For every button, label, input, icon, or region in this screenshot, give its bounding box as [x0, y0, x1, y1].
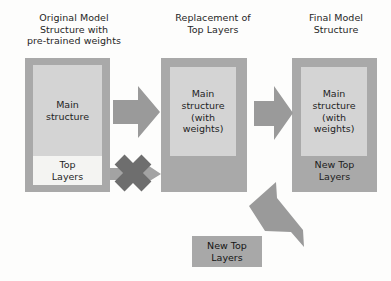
diagram-canvas: Original Model Structure with pre-traine…: [0, 0, 391, 281]
caption-replacement-top-layers: Replacement of Top Layers: [154, 12, 272, 35]
caption-final-model-structure: Final Model Structure: [282, 12, 390, 35]
right-arrow-stage2-to-stage3: [254, 86, 294, 142]
diagonal-arrow-new-top-layers-to-final: [245, 182, 307, 248]
inner-box-main-structure-replacement: Main structure (with weights): [170, 67, 236, 156]
inner-label-main-structure-original: Main structure: [46, 99, 89, 122]
top-layers-label-original: Top Layers: [52, 159, 83, 182]
caption-original-model: Original Model Structure with pre-traine…: [14, 12, 134, 47]
inner-label-main-structure-final: Main structure (with weights): [312, 88, 355, 134]
standalone-new-top-layers-label: New Top Layers: [207, 240, 247, 263]
model-box-final: Main structure (with weights) New Top La…: [292, 58, 377, 192]
new-top-layers-label-final: New Top Layers: [297, 159, 372, 182]
top-layers-box-original: Top Layers: [33, 156, 102, 185]
model-box-replacement: Main structure (with weights): [161, 58, 247, 192]
model-box-original: Main structure Top Layers: [25, 58, 110, 192]
right-arrow-stage1-to-stage2: [113, 86, 161, 140]
inner-box-main-structure-final: Main structure (with weights): [301, 67, 367, 156]
inner-label-main-structure-replacement: Main structure (with weights): [181, 88, 224, 134]
inner-box-main-structure-original: Main structure: [33, 65, 102, 156]
cross-mark-icon: [112, 152, 154, 194]
